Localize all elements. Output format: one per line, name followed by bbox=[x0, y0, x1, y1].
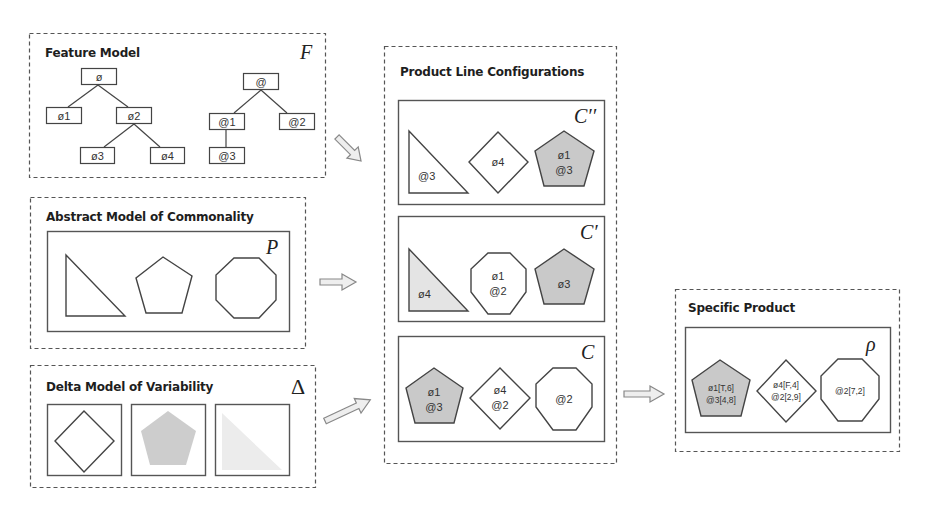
shape-label: ø1 bbox=[428, 386, 441, 398]
specific-product-panel: Specific Product ρ ø1[T,6] @3[4,8] ø4[F,… bbox=[676, 290, 900, 452]
triangle-shape-light bbox=[409, 249, 468, 311]
feature-node-label: ø bbox=[96, 71, 103, 83]
arrow-config-to-product bbox=[624, 386, 664, 402]
config-c: C ø1 @3 ø4 @2 @2 bbox=[399, 337, 605, 442]
feature-tree-phi: ø ø1 ø2 ø3 ø4 bbox=[47, 69, 185, 164]
feature-node-label: ø4 bbox=[161, 150, 174, 162]
shape-label: ø4[F,4] bbox=[773, 380, 799, 390]
shape-label: ø4 bbox=[492, 156, 505, 168]
feature-model-symbol: F bbox=[299, 41, 313, 63]
feature-node-label: @ bbox=[255, 76, 266, 88]
delta-model-title: Delta Model of Variability bbox=[46, 380, 214, 394]
feature-tree-at: @ @1 @2 @3 bbox=[210, 74, 315, 164]
abstract-model-symbol: P bbox=[265, 236, 278, 258]
config-symbol: C′ bbox=[580, 221, 598, 243]
shape-label: ø3 bbox=[558, 278, 571, 290]
specific-product-symbol: ρ bbox=[865, 333, 876, 356]
octagon-shape bbox=[216, 258, 276, 318]
shape-label: @2 bbox=[555, 393, 572, 405]
config-symbol: C bbox=[581, 341, 595, 363]
feature-node-label: @1 bbox=[218, 116, 235, 128]
feature-model-title: Feature Model bbox=[45, 46, 140, 60]
diagram-canvas: Feature Model F ø ø1 ø2 ø3 ø4 @ bbox=[0, 0, 927, 509]
arrow-abstract-to-config bbox=[320, 274, 356, 290]
config-c-prime: C′ ø4 ø1 @2 ø3 bbox=[399, 217, 605, 322]
delta-model-panel: Delta Model of Variability Δ bbox=[31, 366, 316, 488]
shape-label: @2[7,2] bbox=[835, 386, 865, 396]
product-line-title: Product Line Configurations bbox=[400, 65, 584, 79]
shape-label: @2 bbox=[491, 399, 508, 411]
feature-node-label: ø1 bbox=[58, 110, 71, 122]
pentagon-shape-gray bbox=[141, 411, 196, 465]
shape-label: @3 bbox=[418, 170, 435, 182]
feature-node-label: ø3 bbox=[91, 150, 104, 162]
delta-model-symbol: Δ bbox=[291, 374, 305, 399]
shape-label: ø1[T,6] bbox=[708, 383, 734, 393]
diamond-shape bbox=[55, 411, 114, 472]
shape-label: ø4 bbox=[418, 288, 431, 300]
octagon-shape bbox=[471, 253, 526, 314]
triangle-shape bbox=[409, 131, 468, 193]
config-c-double-prime: C′′ @3 ø4 ø1 @3 bbox=[399, 101, 605, 205]
pentagon-shape-gray bbox=[535, 249, 594, 304]
shape-label: ø1 bbox=[558, 149, 571, 161]
feature-node-label: ø2 bbox=[128, 110, 141, 122]
config-symbol: C′′ bbox=[574, 105, 597, 127]
feature-node-label: @3 bbox=[218, 150, 235, 162]
abstract-model-panel: Abstract Model of Commonality P bbox=[31, 198, 306, 349]
pentagon-shape bbox=[136, 257, 192, 313]
shape-label: @2 bbox=[489, 285, 506, 297]
shape-label: @2[2,9] bbox=[771, 392, 801, 402]
product-line-panel: Product Line Configurations C′′ @3 ø4 ø1… bbox=[385, 47, 617, 464]
arrow-delta-to-config bbox=[322, 393, 374, 429]
diamond-shape bbox=[757, 360, 816, 422]
shape-label: @3 bbox=[555, 164, 572, 176]
specific-product-title: Specific Product bbox=[688, 301, 795, 315]
shape-label: @3 bbox=[425, 401, 442, 413]
feature-node-label: @2 bbox=[288, 116, 305, 128]
abstract-model-title: Abstract Model of Commonality bbox=[46, 210, 254, 224]
feature-model-panel: Feature Model F ø ø1 ø2 ø3 ø4 @ bbox=[30, 34, 326, 178]
shape-label: ø4 bbox=[494, 384, 507, 396]
arrow-feature-to-config bbox=[331, 131, 366, 166]
shape-label: ø1 bbox=[492, 270, 505, 282]
triangle-shape-light bbox=[222, 413, 282, 470]
shape-label: @3[4,8] bbox=[706, 395, 736, 405]
triangle-shape bbox=[66, 255, 125, 316]
